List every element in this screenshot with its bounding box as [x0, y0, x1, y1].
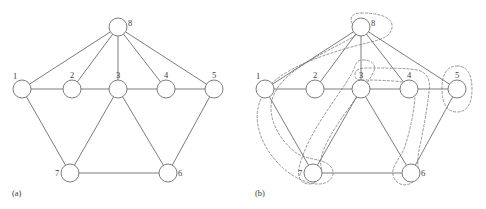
node-8[interactable]: 8 — [109, 18, 132, 36]
node-6[interactable]: 6 — [402, 164, 425, 182]
edge-group — [26, 32, 209, 173]
node-label-1: 1 — [256, 71, 260, 81]
node-4[interactable]: 4 — [157, 70, 175, 98]
node-circle-8[interactable] — [352, 18, 370, 36]
panel-b-graph-with-clusters: 12345678(b) — [243, 0, 486, 209]
edge-1-7 — [269, 97, 308, 165]
node-circle-2[interactable] — [306, 80, 324, 98]
node-circle-6[interactable] — [159, 164, 177, 182]
node-6[interactable]: 6 — [159, 164, 182, 182]
node-label-2: 2 — [70, 70, 74, 80]
node-circle-1[interactable] — [256, 80, 274, 98]
panel-caption-a: (a) — [12, 188, 22, 198]
node-circle-1[interactable] — [13, 80, 31, 98]
node-7[interactable]: 7 — [298, 164, 322, 182]
node-circle-4[interactable] — [400, 80, 418, 98]
node-circle-5[interactable] — [448, 80, 466, 98]
node-label-2: 2 — [313, 70, 317, 80]
node-4[interactable]: 4 — [400, 70, 418, 98]
node-circle-7[interactable] — [304, 164, 322, 182]
node-5[interactable]: 5 — [448, 70, 466, 98]
node-label-8: 8 — [371, 18, 375, 28]
edge-5-6 — [415, 97, 452, 165]
node-circle-3[interactable] — [109, 80, 127, 98]
figure-container: 12345678(a) 12345678(b) — [0, 0, 486, 209]
node-8[interactable]: 8 — [352, 18, 375, 36]
node-2[interactable]: 2 — [306, 70, 324, 98]
node-label-3: 3 — [359, 70, 363, 80]
node-circle-2[interactable] — [63, 80, 81, 98]
node-label-6: 6 — [178, 168, 182, 178]
node-1[interactable]: 1 — [13, 71, 31, 98]
node-circle-3[interactable] — [352, 80, 370, 98]
node-7[interactable]: 7 — [55, 164, 79, 182]
node-3[interactable]: 3 — [109, 70, 127, 98]
node-label-4: 4 — [407, 70, 412, 80]
edge-3-6 — [366, 97, 407, 166]
node-circle-4[interactable] — [157, 80, 175, 98]
edge-5-6 — [172, 97, 209, 165]
node-label-3: 3 — [116, 70, 120, 80]
cluster-1-8-7 — [257, 13, 392, 184]
edge-3-6 — [123, 97, 164, 166]
edge-1-7 — [26, 97, 65, 165]
node-label-8: 8 — [128, 18, 132, 28]
node-2[interactable]: 2 — [63, 70, 81, 98]
node-label-6: 6 — [421, 168, 425, 178]
node-label-7: 7 — [298, 168, 302, 178]
node-circle-8[interactable] — [109, 18, 127, 36]
node-1[interactable]: 1 — [256, 71, 274, 98]
edge-3-7 — [74, 97, 113, 165]
node-label-4: 4 — [164, 70, 169, 80]
node-circle-5[interactable] — [205, 80, 223, 98]
panel-a-graph: 12345678(a) — [0, 0, 243, 209]
edge-3-7 — [317, 97, 356, 165]
panel-caption-b: (b) — [255, 188, 265, 198]
edge-group — [269, 32, 452, 173]
node-label-7: 7 — [55, 168, 59, 178]
node-circle-6[interactable] — [402, 164, 420, 182]
node-circle-7[interactable] — [61, 164, 79, 182]
node-label-5: 5 — [455, 70, 459, 80]
node-label-5: 5 — [212, 70, 216, 80]
edge-4-8 — [124, 34, 161, 82]
node-label-1: 1 — [13, 71, 17, 81]
cluster-group — [257, 13, 472, 185]
node-5[interactable]: 5 — [205, 70, 223, 98]
